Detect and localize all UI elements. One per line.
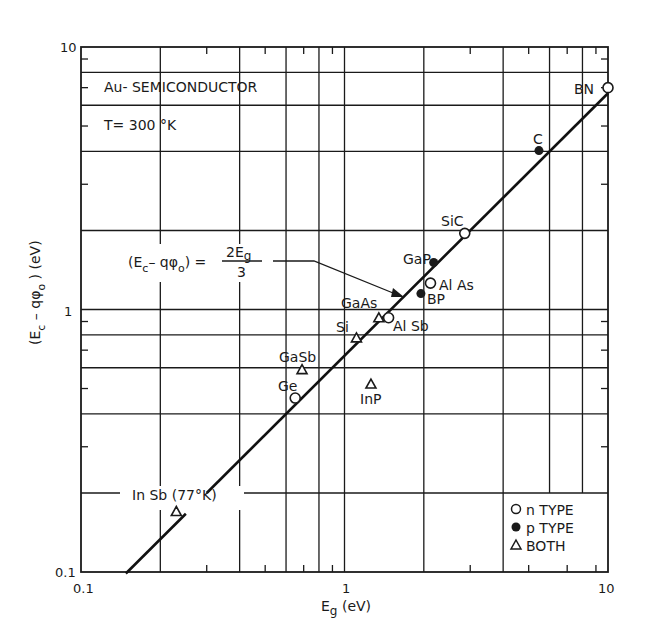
point-c-filled-circle-icon — [534, 146, 543, 155]
point-label: GaSb — [279, 349, 316, 365]
point-label: BP — [427, 291, 445, 307]
y-axis-title: (Ec – qφo ) (eV) — [27, 240, 48, 345]
point-label: SiC — [441, 213, 464, 229]
formula-part: (E — [128, 254, 142, 270]
x-tick-0.1: 0.1 — [73, 581, 94, 596]
formula-arrow — [273, 261, 404, 297]
point-alas-open-circle-icon — [425, 278, 435, 288]
y-tick-0.1: 0.1 — [55, 565, 76, 580]
formula-part: – qφ — [148, 254, 178, 270]
legend-label-p-type: p TYPE — [526, 520, 574, 536]
point-label: BN — [574, 81, 594, 97]
fit-line-segment — [207, 93, 608, 493]
point-si-open-triangle-icon — [351, 333, 361, 342]
filled-circle-icon — [512, 523, 521, 532]
formula-denominator: 3 — [237, 264, 246, 280]
point-inp-open-triangle-icon — [366, 379, 376, 388]
point-label: In Sb (77°K) — [132, 487, 217, 503]
arrowhead-icon — [391, 288, 404, 297]
open-circle-icon — [512, 505, 521, 514]
arrow-line — [273, 261, 398, 295]
data-points — [171, 83, 613, 516]
formula-part: ) = — [185, 254, 207, 270]
point-label: C — [533, 131, 543, 147]
point-label: InP — [360, 391, 381, 407]
point-sic-open-circle-icon — [460, 228, 470, 238]
chart: BNCSiCGaPAl AsBPGaAsAl SbSiGaSbGeInPIn S… — [0, 0, 649, 641]
point-label: Ge — [278, 378, 297, 394]
x-tick-10: 10 — [598, 581, 615, 596]
fit-line-segment — [126, 514, 186, 574]
point-bn-open-circle-icon — [603, 83, 613, 93]
x-tick-1: 1 — [342, 581, 350, 596]
chart-title: Au- SEMICONDUCTOR — [104, 79, 258, 95]
point-label: GaP — [403, 251, 431, 267]
formula-numerator: 2E — [226, 244, 244, 260]
point-label: Al Sb — [393, 318, 429, 334]
point-ge-open-circle-icon — [290, 393, 300, 403]
y-tick-1: 1 — [64, 304, 72, 319]
point-labels: BNCSiCGaPAl AsBPGaAsAl SbSiGaSbGeInPIn S… — [132, 81, 594, 503]
text-masks — [120, 244, 596, 558]
y-tick-10: 10 — [60, 40, 77, 55]
point-label: Si — [336, 319, 349, 335]
point-gasb-open-triangle-icon — [297, 365, 307, 374]
legend-label-n-type: n TYPE — [526, 502, 574, 518]
point-bp-filled-circle-icon — [416, 289, 425, 298]
x-axis-title: Eg (eV) — [321, 598, 371, 618]
legend-label-both: BOTH — [526, 538, 565, 554]
point-label: GaAs — [341, 295, 377, 311]
temperature-label: T= 300 °K — [103, 117, 177, 133]
